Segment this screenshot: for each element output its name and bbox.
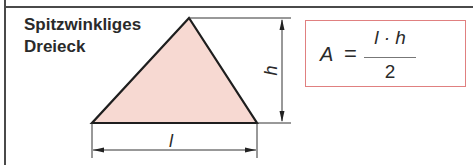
height-arrow-down-icon <box>280 111 285 122</box>
area-formula: A = l · h 2 <box>306 21 465 86</box>
height-arrow-up-icon <box>280 19 285 30</box>
base-arrow-right-icon <box>245 148 256 153</box>
formula-box: A = l · h 2 <box>305 20 466 87</box>
formula-denominator: 2 <box>364 61 416 83</box>
formula-numerator: l · h <box>364 27 416 49</box>
formula-lhs: A <box>320 43 333 66</box>
base-label: l <box>169 131 173 152</box>
acute-triangle <box>92 18 257 123</box>
height-label: h <box>261 65 282 75</box>
base-arrow-left-icon <box>93 148 104 153</box>
fraction-bar <box>364 57 416 58</box>
formula-equals: = <box>344 41 357 67</box>
